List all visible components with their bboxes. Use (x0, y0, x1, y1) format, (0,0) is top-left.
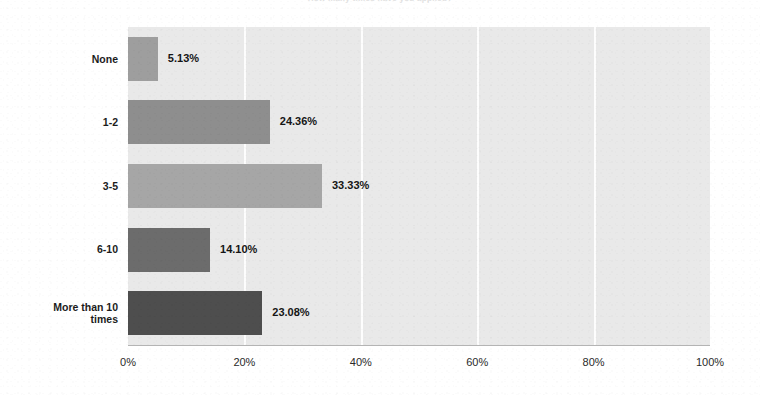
bar-chart-figure: How many times have you applied? None 1-… (0, 0, 760, 395)
x-tick-100: 100% (696, 356, 724, 368)
x-axis-line (128, 345, 710, 346)
chart-title: How many times have you applied? (0, 0, 760, 3)
bar-more-than-10-times[interactable] (128, 291, 262, 335)
value-label-6-10: 14.10% (220, 243, 257, 255)
value-label-1-2: 24.36% (280, 115, 317, 127)
x-tick-0: 0% (120, 356, 136, 368)
bar-row (128, 281, 710, 345)
bar-row (128, 218, 710, 282)
value-label-3-5: 33.33% (332, 179, 369, 191)
x-tick-60: 60% (466, 356, 488, 368)
bar-none[interactable] (128, 37, 158, 81)
x-tick-80: 80% (583, 356, 605, 368)
x-tick-40: 40% (350, 356, 372, 368)
bar-row (128, 154, 710, 218)
category-label-6-10: 6-10 (0, 243, 118, 256)
category-label-3-5: 3-5 (0, 180, 118, 193)
bar-row (128, 27, 710, 91)
category-label-1-2: 1-2 (0, 116, 118, 129)
category-label-more-than-10-times: More than 10 times (0, 301, 118, 326)
plot-area (128, 27, 710, 345)
bar-row (128, 91, 710, 155)
bar-1-2[interactable] (128, 100, 270, 144)
x-tick-20: 20% (233, 356, 255, 368)
value-label-none: 5.13% (168, 52, 199, 64)
value-label-more-than-10-times: 23.08% (272, 306, 309, 318)
bar-6-10[interactable] (128, 228, 210, 272)
category-label-none: None (0, 53, 118, 66)
bar-3-5[interactable] (128, 164, 322, 208)
